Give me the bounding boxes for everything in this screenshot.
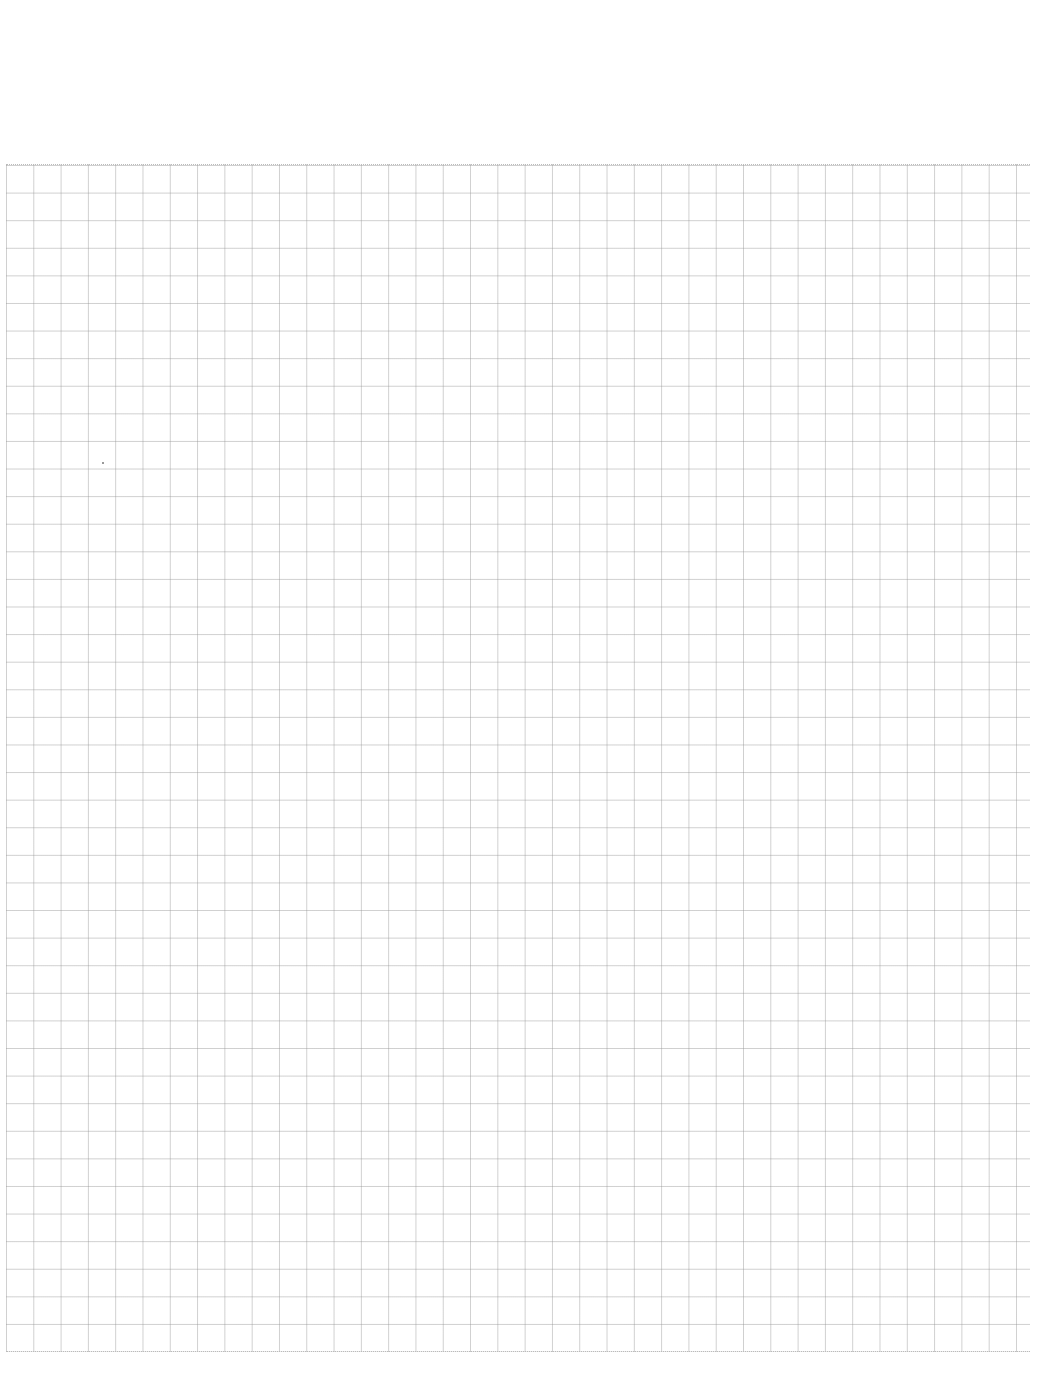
stray-mark — [102, 462, 104, 464]
grid-paper — [6, 164, 1030, 1352]
